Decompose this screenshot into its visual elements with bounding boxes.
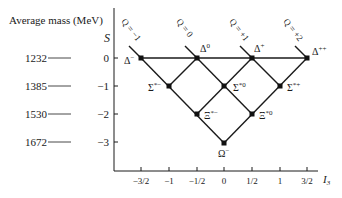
label-xi-0: Ξ*0 — [259, 109, 273, 121]
particle-dots — [139, 56, 310, 146]
dot-xi-minus — [195, 112, 200, 117]
q-minus1-label: Q = −1 — [119, 17, 143, 43]
q-0-label: Q = 0 — [174, 17, 195, 40]
x-tick-half: 1/2 — [246, 176, 258, 186]
q-plus2-label: Q = +2 — [281, 17, 305, 43]
label-omega-minus: Ω− — [218, 147, 229, 159]
mass-label-1530: 1530 — [25, 108, 48, 120]
x-axis-ticks: −3/2 −1 −1/2 0 1/2 1 3/2 — [133, 167, 313, 186]
q-plus1-label: Q = +1 — [227, 17, 251, 43]
label-sigma-minus: Σ*− — [148, 81, 161, 93]
charge-labels: Q = −1 Q = 0 Q = +1 Q = +2 — [119, 17, 305, 43]
mass-label-1232: 1232 — [25, 52, 47, 64]
label-delta-minus: Δ− — [124, 54, 134, 66]
dot-delta-plus — [250, 56, 255, 61]
label-delta-plusplus: Δ++ — [312, 45, 326, 57]
x-tick-minus1: −1 — [164, 176, 174, 186]
y-tick-minus1: −1 — [97, 80, 109, 92]
x-axis-label: I3 — [322, 173, 331, 187]
label-delta-plus: Δ+ — [254, 42, 264, 54]
dot-sigma-minus — [167, 84, 172, 89]
y-axis-label: S — [104, 31, 110, 45]
mass-axis-title: Average mass (MeV) — [9, 14, 103, 27]
label-delta-0: Δ0 — [200, 42, 210, 54]
baryon-decuplet-diagram: Average mass (MeV) 1232 1385 1530 1672 S… — [0, 0, 342, 198]
x-tick-minus-half: −1/2 — [189, 176, 206, 186]
mass-label-1385: 1385 — [25, 80, 48, 92]
x-tick-1: 1 — [278, 176, 283, 186]
mass-label-1672: 1672 — [25, 136, 47, 148]
dot-omega-minus — [222, 141, 227, 146]
multiplet-lines — [129, 46, 307, 143]
x-tick-3half: 3/2 — [301, 176, 313, 186]
dot-delta-plusplus — [305, 56, 310, 61]
label-sigma-0: Σ*0 — [233, 81, 246, 93]
y-tick-0: 0 — [104, 52, 110, 64]
label-sigma-plus: Σ*+ — [287, 81, 300, 93]
dot-xi-0 — [250, 112, 255, 117]
mass-labels: 1232 1385 1530 1672 — [25, 52, 71, 148]
dot-sigma-0 — [222, 84, 227, 89]
y-tick-minus2: −2 — [97, 108, 109, 120]
dot-delta-minus — [139, 56, 144, 61]
x-tick-minus3half: −3/2 — [133, 176, 150, 186]
y-tick-minus3: −3 — [97, 136, 109, 148]
dot-delta-0 — [195, 56, 200, 61]
label-xi-minus: Ξ*− — [204, 109, 218, 121]
dot-sigma-plus — [278, 84, 283, 89]
y-axis-ticks: 0 −1 −2 −3 — [97, 52, 118, 148]
x-tick-0: 0 — [222, 176, 227, 186]
